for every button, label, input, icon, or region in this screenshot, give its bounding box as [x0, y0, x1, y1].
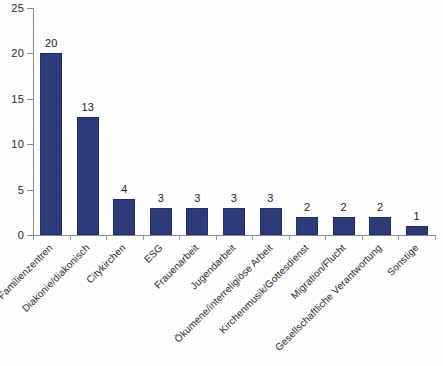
bar-value-label: 2 [329, 202, 359, 213]
y-axis-tick-label: 0 [0, 230, 24, 241]
x-axis-tick [435, 236, 436, 240]
x-axis-category-label: Sonstige [385, 242, 421, 278]
x-axis-tick [143, 236, 144, 240]
bar-value-label: 3 [256, 193, 286, 204]
bar-value-label: 3 [219, 193, 249, 204]
bar [150, 208, 172, 235]
y-axis-tick-label: 15 [0, 94, 24, 105]
x-axis-tick [179, 236, 180, 240]
x-axis-category-label: ESG [142, 242, 165, 265]
bar-value-label: 20 [36, 38, 66, 49]
x-axis-tick [70, 236, 71, 240]
bar [186, 208, 208, 235]
x-axis-tick [216, 236, 217, 240]
bar [369, 217, 391, 235]
x-axis-tick [33, 236, 34, 240]
bar [260, 208, 282, 235]
bar [113, 199, 135, 235]
x-axis-category-label: Diakonie/diakonisch [20, 242, 92, 314]
x-axis-tick [289, 236, 290, 240]
bar-value-label: 3 [146, 193, 176, 204]
x-axis-tick [106, 236, 107, 240]
bar-chart: 0510152025 2013433332221 Familienzentren… [0, 0, 443, 366]
bar [296, 217, 318, 235]
y-axis-tick-label: 25 [0, 3, 24, 14]
x-axis-tick [398, 236, 399, 240]
bar-value-label: 4 [109, 184, 139, 195]
y-axis-tick-label: 5 [0, 185, 24, 196]
bar-value-label: 2 [292, 202, 322, 213]
y-axis-tick-label: 20 [0, 48, 24, 59]
bar-value-label: 2 [365, 202, 395, 213]
bar [406, 226, 428, 235]
bar-value-label: 13 [73, 102, 103, 113]
bar-value-label: 1 [402, 211, 432, 222]
bar [333, 217, 355, 235]
x-axis-tick [252, 236, 253, 240]
bar [77, 117, 99, 235]
x-axis-line [33, 235, 436, 236]
y-axis-tick-label: 10 [0, 139, 24, 150]
bar [223, 208, 245, 235]
bar-value-label: 3 [182, 193, 212, 204]
bar [40, 53, 62, 235]
x-axis-tick [325, 236, 326, 240]
x-axis-tick [362, 236, 363, 240]
